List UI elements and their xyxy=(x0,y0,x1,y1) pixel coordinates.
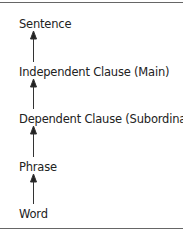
arrows xyxy=(0,0,183,234)
bottom-rule xyxy=(0,228,183,229)
arrow-up-icon xyxy=(31,174,37,204)
arrow-up-icon xyxy=(31,79,37,109)
arrow-up-icon xyxy=(31,31,37,62)
arrow-up-icon xyxy=(31,126,37,157)
